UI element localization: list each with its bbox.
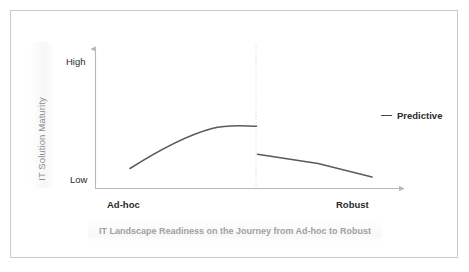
x-axis-tick-ad-hoc: Ad-hoc (107, 199, 140, 210)
chart-figure: IT Solution Maturity High Low Ad-hoc Rob… (0, 0, 469, 272)
y-axis-tick-low: Low (70, 174, 87, 185)
x-axis-tick-robust: Robust (336, 199, 369, 210)
y-axis-title: IT Solution Maturity (30, 66, 54, 212)
legend-label-predictive: Predictive (397, 110, 442, 121)
chart-caption: IT Landscape Readiness on the Journey fr… (88, 220, 382, 242)
chart-legend: Predictive (381, 110, 442, 121)
y-axis-tick-high: High (66, 56, 86, 67)
legend-line-icon-predictive (381, 115, 392, 116)
